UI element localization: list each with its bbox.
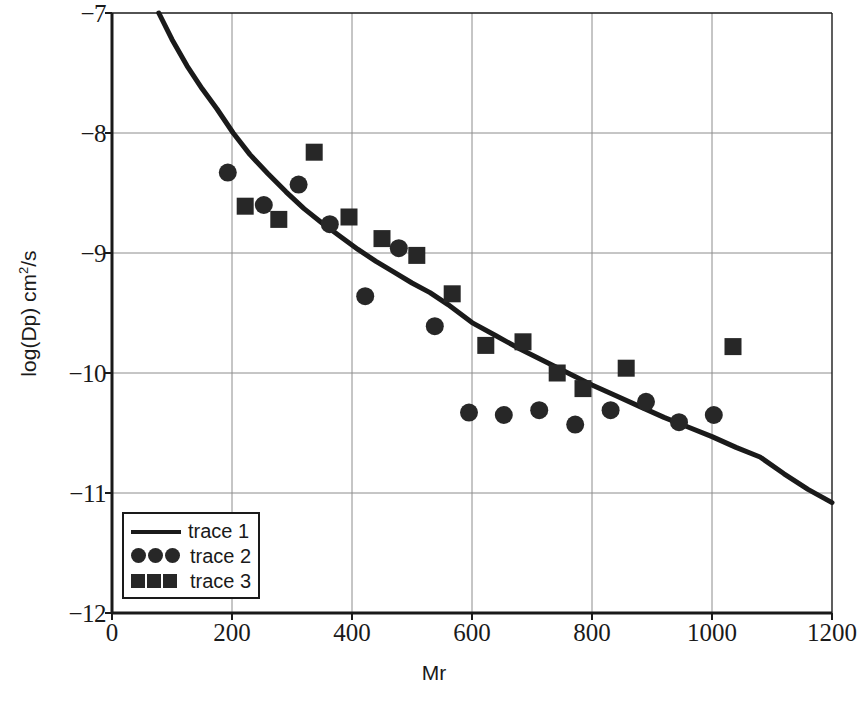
legend-key-circle-icon [129,545,185,567]
y-axis-title-tail: /s [17,250,40,266]
y-tick-label: −10 [68,361,106,386]
x-tick-label: 600 [453,620,491,645]
series-trace-2-markers [219,164,723,434]
x-axis-title: Mr [0,661,868,685]
legend-item-trace-2: trace 2 [129,543,253,568]
y-tick-label: −9 [80,241,106,266]
x-tick-label: 200 [213,620,251,645]
legend-label-trace-1: trace 1 [183,521,249,541]
x-axis-tick-labels: 020040060080010001200 [0,620,868,654]
x-tick-label: 1200 [807,620,857,645]
y-axis-title-superscript: 2 [16,266,31,273]
y-tick-label: −11 [69,481,106,506]
series-trace-3-markers [237,144,742,397]
y-axis-title-wrapper: log(Dp) cm2/s [0,0,56,626]
series-trace-1-line [159,13,832,503]
y-axis-title-main: log(Dp) cm [17,273,40,376]
legend-label-trace-3: trace 3 [185,571,251,591]
y-axis-tick-labels: −7−8−9−10−11−12 [58,0,106,703]
legend-item-trace-3: trace 3 [129,568,253,593]
x-tick-label: 400 [333,620,371,645]
x-tick-label: 0 [106,620,119,645]
x-tick-label: 1000 [687,620,737,645]
legend-key-line-icon [129,520,183,542]
chart-figure: −7−8−9−10−11−12 020040060080010001200 Mr… [0,0,868,703]
legend-label-trace-2: trace 2 [185,546,251,566]
y-axis-title: log(Dp) cm2/s [16,250,41,376]
legend-item-trace-1: trace 1 [129,518,253,543]
x-tick-label: 800 [573,620,611,645]
y-tick-label: −8 [80,121,106,146]
y-tick-label: −7 [80,1,106,26]
legend-key-square-icon [129,570,185,592]
legend: trace 1 trace 2 trace 3 [122,512,260,599]
